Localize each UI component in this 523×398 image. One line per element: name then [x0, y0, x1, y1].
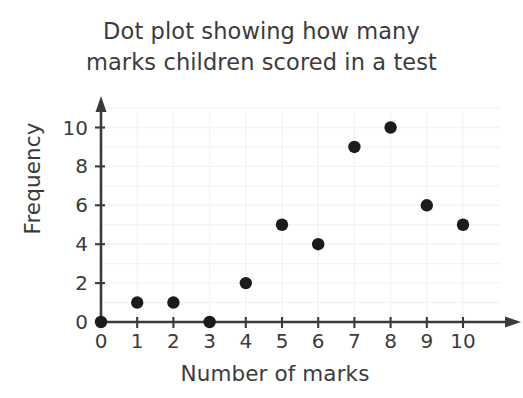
- x-tick-label: 7: [348, 331, 361, 351]
- dot-plot-figure: Dot plot showing how many marks children…: [0, 0, 523, 398]
- x-tick-label: 6: [312, 331, 325, 351]
- x-axis-arrowhead: [505, 317, 521, 328]
- x-tick-label: 9: [420, 331, 433, 351]
- x-tick-label: 8: [384, 331, 397, 351]
- x-tick-label: 5: [276, 331, 289, 351]
- x-tick-label: 1: [131, 331, 144, 351]
- y-tick-label: 10: [40, 118, 88, 138]
- data-point: [240, 277, 252, 289]
- y-tick-label: 6: [40, 195, 88, 215]
- y-tick-label: 2: [40, 273, 88, 293]
- data-point: [312, 238, 324, 250]
- y-tick-label: 8: [40, 156, 88, 176]
- data-point: [457, 219, 469, 231]
- x-axis-title: Number of marks: [60, 361, 490, 386]
- data-point: [95, 316, 107, 328]
- y-axis-title: Frequency: [20, 84, 45, 274]
- data-point: [131, 296, 143, 308]
- data-point: [167, 296, 179, 308]
- axes: [96, 96, 522, 328]
- x-tick-label: 2: [167, 331, 180, 351]
- data-point: [421, 199, 433, 211]
- gridlines: [101, 108, 500, 322]
- y-axis-arrowhead: [96, 96, 107, 112]
- x-tick-label: 3: [203, 331, 216, 351]
- data-point: [203, 316, 215, 328]
- x-tick-label: 4: [239, 331, 252, 351]
- data-point: [348, 141, 360, 153]
- y-tick-label: 0: [40, 312, 88, 332]
- y-tick-label: 4: [40, 234, 88, 254]
- x-tick-label: 10: [450, 331, 475, 351]
- x-tick-label: 0: [95, 331, 108, 351]
- data-point: [384, 121, 396, 133]
- data-point: [276, 219, 288, 231]
